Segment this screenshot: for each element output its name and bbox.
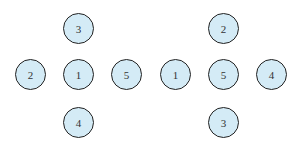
node: 2 <box>208 13 239 44</box>
node: 3 <box>63 13 94 44</box>
node: 1 <box>160 59 191 90</box>
node: 3 <box>208 107 239 138</box>
node: 2 <box>15 59 46 90</box>
node: 5 <box>111 59 142 90</box>
node: 5 <box>208 59 239 90</box>
node: 1 <box>63 59 94 90</box>
node: 4 <box>63 107 94 138</box>
node: 4 <box>256 59 287 90</box>
